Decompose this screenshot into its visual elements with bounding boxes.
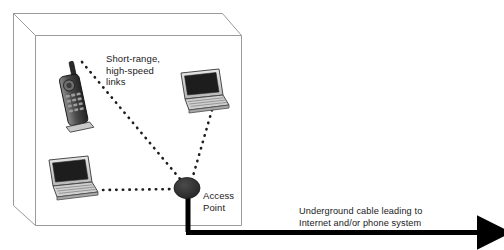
mobile-phone — [53, 60, 94, 133]
laptop-left-screen — [53, 160, 89, 183]
link-laptop-right-to-ap — [191, 110, 212, 183]
short-range-links-label: Short-range, high-speed links — [106, 53, 160, 88]
diagram-svg — [0, 0, 504, 250]
underground-cable-label: Underground cable leading to Internet an… — [299, 206, 422, 230]
laptop-right-screen — [185, 73, 220, 96]
link-laptop-left-to-ap — [103, 189, 180, 190]
room-top-face — [14, 14, 242, 36]
access-point-node[interactable] — [174, 178, 200, 199]
laptop-left — [49, 156, 98, 200]
diagram-canvas: Short-range, high-speed links Access Poi… — [0, 0, 504, 250]
laptop-right — [181, 69, 229, 113]
access-point-label: Access Point — [203, 190, 234, 213]
room-left-face — [14, 14, 36, 226]
